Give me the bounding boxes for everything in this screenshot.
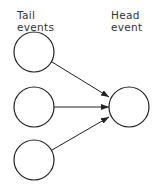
tail-event-node-1 (14, 32, 54, 72)
head-event-node (109, 87, 149, 127)
tail-event-node-3 (14, 140, 54, 180)
tail-event-node-2 (14, 87, 54, 127)
event-diagram (0, 0, 159, 188)
arrow-1-to-head (52, 62, 109, 97)
arrow-3-to-head (52, 117, 109, 150)
